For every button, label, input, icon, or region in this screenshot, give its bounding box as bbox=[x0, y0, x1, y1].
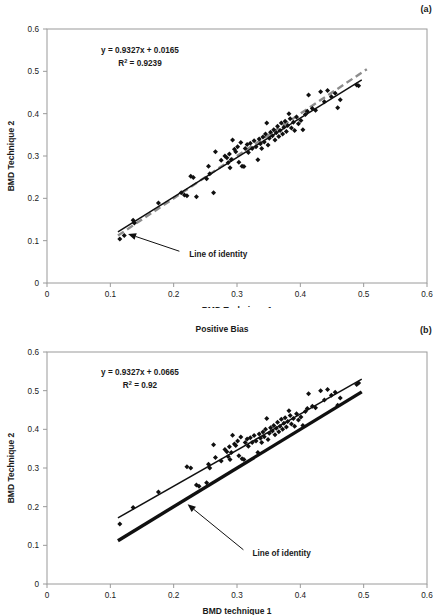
regression-line bbox=[118, 80, 362, 232]
x-tick-label: 0.2 bbox=[168, 591, 180, 600]
chart-panel-a: (a) 00.10.20.30.40.50.600.10.20.30.40.50… bbox=[0, 0, 444, 308]
data-point bbox=[211, 190, 216, 195]
x-tick-label: 0.2 bbox=[168, 290, 180, 299]
y-tick-label: 0.6 bbox=[28, 25, 40, 34]
annotation-arrow-head bbox=[128, 233, 137, 239]
annotation-label: Line of identity bbox=[189, 250, 248, 259]
data-point bbox=[276, 134, 281, 139]
data-point bbox=[286, 111, 291, 116]
data-point bbox=[255, 157, 260, 162]
x-tick-label: 0 bbox=[45, 290, 50, 299]
data-point bbox=[184, 464, 189, 469]
data-point bbox=[273, 137, 278, 142]
regression-equation: y = 0.9327x + 0.0165 bbox=[101, 46, 179, 55]
figure-container: (a) 00.10.20.30.40.50.600.10.20.30.40.50… bbox=[0, 0, 444, 615]
y-tick-label: 0 bbox=[34, 279, 39, 288]
data-point-group bbox=[117, 380, 361, 526]
data-point bbox=[213, 455, 218, 460]
x-axis-title: BMD technique 1 bbox=[203, 606, 272, 615]
y-tick-label: 0.1 bbox=[28, 541, 40, 550]
r-squared-value: R2 = 0.9239 bbox=[118, 58, 162, 68]
data-point bbox=[230, 433, 235, 438]
x-tick-label: 0.3 bbox=[231, 290, 243, 299]
annotation-arrow-head bbox=[188, 504, 196, 512]
x-tick-label: 0.4 bbox=[295, 290, 307, 299]
data-point bbox=[236, 160, 241, 165]
data-point bbox=[188, 466, 193, 471]
regression-line bbox=[118, 379, 362, 518]
data-point bbox=[300, 127, 305, 132]
data-point bbox=[288, 116, 293, 121]
chart-panel-b: (b) Positive Bias 00.10.20.30.40.50.600.… bbox=[0, 307, 444, 615]
data-point bbox=[318, 388, 323, 393]
line-of-identity bbox=[118, 69, 367, 235]
x-tick-label: 0.4 bbox=[295, 591, 307, 600]
x-tick-label: 0.5 bbox=[358, 591, 370, 600]
y-tick-label: 0 bbox=[34, 580, 39, 589]
x-tick-label: 0.5 bbox=[358, 290, 370, 299]
data-point bbox=[236, 453, 241, 458]
scatter-plot-b: 00.10.20.30.40.50.600.10.20.30.40.50.6BM… bbox=[0, 307, 444, 615]
data-point bbox=[213, 149, 218, 154]
data-point bbox=[264, 120, 269, 125]
scatter-plot-a: 00.10.20.30.40.50.600.10.20.30.40.50.6BM… bbox=[0, 0, 444, 308]
x-tick-label: 0.3 bbox=[231, 591, 243, 600]
data-point bbox=[259, 146, 264, 151]
data-point bbox=[117, 236, 122, 241]
y-tick-label: 0.2 bbox=[28, 194, 40, 203]
y-tick-label: 0.1 bbox=[28, 237, 40, 246]
y-tick-label: 0.3 bbox=[28, 464, 40, 473]
y-tick-label: 0.5 bbox=[28, 67, 40, 76]
data-point bbox=[276, 429, 281, 434]
y-tick-label: 0.4 bbox=[28, 110, 40, 119]
data-point bbox=[259, 440, 264, 445]
data-point bbox=[338, 97, 343, 102]
annotation-arrow-line bbox=[194, 509, 244, 549]
line-of-identity bbox=[118, 392, 362, 541]
data-point bbox=[284, 425, 289, 430]
data-point bbox=[235, 438, 240, 443]
data-point bbox=[211, 442, 216, 447]
data-point bbox=[238, 435, 243, 440]
data-point bbox=[318, 89, 323, 94]
data-point bbox=[306, 93, 311, 98]
annotation-arrow-line bbox=[136, 236, 180, 251]
x-tick-label: 0.6 bbox=[421, 290, 433, 299]
data-point bbox=[117, 522, 122, 527]
x-tick-label: 0.1 bbox=[105, 290, 117, 299]
data-point bbox=[228, 165, 233, 170]
data-point bbox=[284, 129, 289, 134]
data-point bbox=[325, 387, 330, 392]
regression-equation: y = 0.9327x + 0.0665 bbox=[101, 368, 179, 377]
x-tick-label: 0.1 bbox=[105, 591, 117, 600]
data-point bbox=[266, 142, 271, 147]
data-point bbox=[252, 433, 257, 438]
data-point-group bbox=[117, 82, 361, 241]
data-point bbox=[286, 408, 291, 413]
data-point bbox=[266, 437, 271, 442]
data-point bbox=[238, 140, 243, 145]
data-point bbox=[306, 391, 311, 396]
annotation-label: Line of identity bbox=[253, 549, 312, 558]
r-squared-value: R2 = 0.92 bbox=[123, 380, 158, 390]
data-point bbox=[288, 413, 293, 418]
data-point bbox=[230, 137, 235, 142]
x-tick-label: 0 bbox=[45, 591, 50, 600]
data-point bbox=[206, 164, 211, 169]
data-point bbox=[273, 432, 278, 437]
x-tick-label: 0.6 bbox=[421, 591, 433, 600]
y-axis-title: BMD Technique 2 bbox=[6, 432, 16, 503]
data-point bbox=[227, 444, 232, 449]
y-tick-label: 0.3 bbox=[28, 152, 40, 161]
data-point bbox=[227, 151, 232, 156]
y-tick-label: 0.5 bbox=[28, 387, 40, 396]
data-point bbox=[338, 396, 343, 401]
data-point bbox=[275, 420, 280, 425]
y-tick-label: 0.2 bbox=[28, 503, 40, 512]
y-tick-label: 0.6 bbox=[28, 348, 40, 357]
data-point bbox=[325, 88, 330, 93]
data-point bbox=[335, 105, 340, 110]
data-point bbox=[264, 416, 269, 421]
y-axis-title: BMD Technique 2 bbox=[6, 120, 16, 191]
data-point bbox=[194, 194, 199, 199]
